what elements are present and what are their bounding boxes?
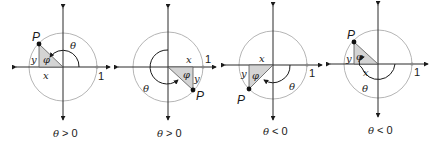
label-p: P	[237, 93, 245, 107]
caption: θ>0	[53, 127, 78, 139]
label-y: y	[30, 54, 37, 65]
label-one: 1	[205, 53, 211, 65]
panel-2: P y φ x θ 1 θ>0	[118, 8, 216, 139]
label-p: P	[196, 89, 204, 103]
point-p	[191, 88, 196, 93]
label-theta: θ	[289, 81, 295, 92]
caption: θ>0	[157, 127, 182, 139]
point-p	[247, 87, 252, 92]
label-one: 1	[98, 70, 104, 82]
panel-4: P y φ x θ 1 θ<0	[330, 5, 428, 136]
label-theta: θ	[362, 83, 368, 94]
label-x: x	[363, 67, 369, 78]
label-theta: θ	[143, 83, 149, 94]
unit-circle-figure: P y φ x θ 1 θ>0 P y φ x θ 1 θ>0	[0, 0, 433, 144]
panel-3: P y φ x θ 1 θ<0	[225, 6, 322, 137]
label-phi: φ	[183, 69, 190, 80]
caption: θ<0	[368, 124, 393, 136]
label-one: 1	[414, 66, 420, 78]
label-p: P	[347, 28, 355, 42]
label-x: x	[186, 54, 192, 65]
caption: θ<0	[263, 125, 288, 137]
label-one: 1	[309, 67, 315, 79]
unit-tick	[95, 65, 98, 68]
label-phi: φ	[43, 54, 50, 65]
label-x: x	[259, 53, 265, 64]
label-phi: φ	[356, 51, 363, 62]
label-x: x	[43, 70, 49, 81]
label-y: y	[345, 53, 352, 64]
unit-tick	[201, 65, 204, 68]
panel-1: P y φ x θ 1 θ>0	[16, 8, 110, 139]
label-phi: φ	[252, 70, 259, 81]
label-p: P	[32, 30, 40, 44]
label-theta: θ	[70, 40, 76, 51]
label-y: y	[193, 73, 200, 84]
label-y: y	[240, 68, 247, 79]
